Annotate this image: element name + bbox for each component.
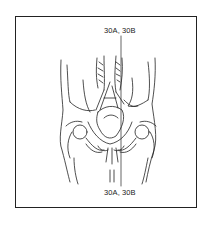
label-bottom: 30A, 30B — [104, 188, 136, 197]
label-top: 30A, 30B — [104, 26, 136, 35]
